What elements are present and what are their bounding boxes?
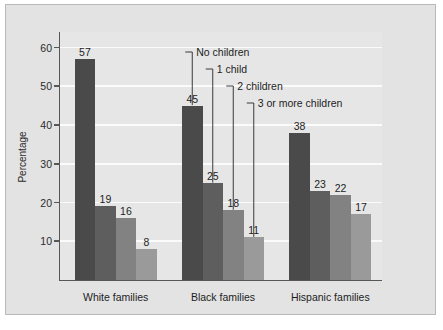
x-axis-group-label: Hispanic families bbox=[291, 291, 370, 303]
bar-value-label: 57 bbox=[79, 46, 91, 58]
bar-value-label: 23 bbox=[314, 178, 326, 190]
y-axis-tick bbox=[54, 202, 60, 204]
bar: 45 bbox=[182, 106, 203, 280]
bar-value-label: 17 bbox=[355, 201, 367, 213]
y-axis-tick bbox=[54, 240, 60, 242]
bar: 18 bbox=[223, 210, 244, 280]
annotation-label: 3 or more children bbox=[258, 97, 343, 109]
y-axis-title: Percentage bbox=[17, 131, 28, 182]
bar: 22 bbox=[330, 195, 351, 280]
y-axis-tick-label: 10 bbox=[40, 235, 52, 247]
x-axis-group-label: White families bbox=[83, 291, 148, 303]
y-axis-tick bbox=[54, 124, 60, 126]
bar: 17 bbox=[351, 214, 372, 280]
annotation-label: 1 child bbox=[217, 63, 247, 75]
bar: 11 bbox=[244, 237, 265, 280]
chart-figure: Percentage 102030405060 5719168452518113… bbox=[5, 4, 436, 315]
gridline bbox=[60, 124, 382, 126]
y-axis-tick bbox=[54, 47, 60, 49]
y-axis-tick-label: 30 bbox=[40, 158, 52, 170]
y-axis-tick-label: 20 bbox=[40, 197, 52, 209]
bar: 57 bbox=[75, 59, 96, 280]
bar-value-label: 8 bbox=[143, 236, 149, 248]
bar-value-label: 45 bbox=[186, 93, 198, 105]
bar: 16 bbox=[116, 218, 137, 280]
bar-value-label: 18 bbox=[227, 197, 239, 209]
bar: 8 bbox=[136, 249, 157, 280]
bar: 19 bbox=[95, 206, 116, 280]
y-axis-tick-label: 50 bbox=[40, 80, 52, 92]
bar-value-label: 16 bbox=[120, 205, 132, 217]
annotation-label: No children bbox=[196, 46, 249, 58]
y-axis-tick bbox=[54, 85, 60, 87]
bar-value-label: 38 bbox=[294, 120, 306, 132]
bar-value-label: 11 bbox=[248, 224, 259, 236]
bar-value-label: 25 bbox=[207, 170, 219, 182]
gridline bbox=[60, 163, 382, 165]
bar-value-label: 22 bbox=[335, 182, 347, 194]
y-axis-tick bbox=[54, 163, 60, 165]
annotation-label: 2 children bbox=[237, 80, 283, 92]
x-axis-group-label: Black families bbox=[191, 291, 255, 303]
y-axis-tick-label: 40 bbox=[40, 119, 52, 131]
gridline bbox=[60, 85, 382, 87]
bar-value-label: 19 bbox=[100, 193, 112, 205]
leader-line bbox=[226, 86, 233, 210]
leader-line bbox=[247, 103, 254, 237]
bar: 25 bbox=[203, 183, 224, 280]
bar: 38 bbox=[289, 133, 310, 280]
plot-area: 102030405060 57191684525181138232217 Whi… bbox=[59, 32, 382, 281]
bar: 23 bbox=[310, 191, 331, 280]
y-axis-tick-label: 60 bbox=[40, 42, 52, 54]
